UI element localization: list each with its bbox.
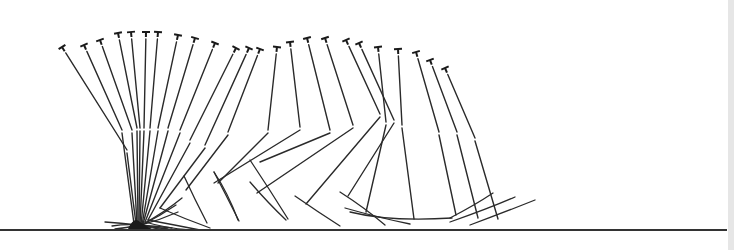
hip-marker-icon — [173, 34, 182, 41]
hip-marker-icon — [303, 37, 312, 44]
thigh-segment — [268, 54, 276, 130]
hip-marker-icon — [96, 39, 105, 46]
shank-segment — [306, 117, 380, 204]
shank-segment — [366, 125, 386, 212]
stick-frame — [345, 47, 410, 224]
hip-marker-icon — [114, 32, 123, 38]
hip-marker-icon — [254, 48, 263, 56]
hip-marker-icon — [426, 59, 435, 66]
stick-frame — [184, 48, 264, 223]
stick-frame — [412, 51, 493, 218]
thigh-segment — [180, 49, 212, 130]
thigh-segment — [327, 45, 353, 125]
hip-marker-icon — [374, 47, 382, 53]
thigh-segment — [291, 49, 300, 127]
thigh-segment — [132, 39, 140, 128]
shank-segment — [139, 131, 140, 225]
hip-marker-icon — [412, 51, 421, 58]
foot-curve — [214, 172, 239, 221]
hip-marker-icon — [80, 43, 89, 51]
hip-marker-icon — [142, 32, 150, 37]
hip-marker-icon — [190, 37, 199, 44]
stick-frame — [295, 38, 380, 226]
shank-segment — [475, 141, 498, 219]
thigh-segment — [150, 39, 157, 128]
hip-marker-icon — [127, 32, 135, 38]
thigh-segment — [418, 59, 439, 132]
foot-curve — [160, 208, 210, 228]
hip-marker-icon — [272, 47, 280, 53]
hip-marker-icon — [59, 45, 68, 53]
thigh-segment — [228, 56, 257, 132]
shank-segment — [257, 128, 353, 193]
hip-marker-icon — [321, 37, 330, 44]
thigh-segment — [448, 74, 475, 138]
hip-marker-icon — [154, 32, 162, 38]
thigh-segment — [87, 51, 122, 130]
shank-segment — [348, 123, 394, 196]
stick-frames — [59, 32, 535, 230]
shank-segment — [214, 130, 300, 183]
stick-frame — [145, 42, 219, 230]
hip-marker-icon — [286, 42, 295, 48]
foot-curve — [184, 176, 207, 223]
thigh-segment — [158, 42, 177, 128]
shank-segment — [137, 131, 138, 225]
foot-curve — [345, 208, 410, 224]
stick-frame — [142, 34, 182, 225]
shank-segment — [186, 135, 228, 190]
thigh-segment — [168, 45, 193, 128]
foot-curve — [450, 197, 515, 222]
shank-segment — [402, 128, 414, 219]
right-edge-shadow — [728, 0, 734, 250]
thigh-segment — [309, 45, 330, 130]
thigh-segment — [119, 40, 137, 128]
thigh-segment — [398, 56, 402, 125]
stick-frame — [250, 37, 330, 219]
thigh-segment — [66, 53, 127, 150]
foot-curve — [295, 196, 340, 226]
thigh-segment — [144, 39, 146, 128]
hip-marker-icon — [243, 46, 252, 54]
hip-marker-icon — [394, 49, 402, 54]
stick-frame — [250, 37, 353, 220]
foot-curve — [470, 200, 535, 225]
hip-marker-icon — [441, 66, 450, 74]
shank-segment — [457, 135, 478, 218]
motion-sequence-diagram — [0, 0, 734, 250]
hip-marker-icon — [209, 42, 218, 50]
shank-segment — [439, 135, 456, 215]
stick-frame — [441, 66, 535, 225]
stick-frame — [160, 46, 253, 228]
hip-marker-icon — [230, 46, 239, 54]
hip-marker-icon — [355, 41, 364, 49]
hip-marker-icon — [342, 38, 351, 46]
